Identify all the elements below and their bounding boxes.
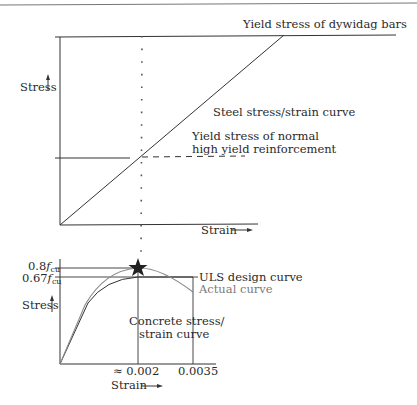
concrete-label-2: strain curve xyxy=(139,327,209,341)
page-top-rule xyxy=(0,3,417,5)
dywidag-yield-line xyxy=(55,35,396,37)
steel-curve-label: Steel stress/strain curve xyxy=(213,105,355,119)
concrete-chart: 0.8fcu 0.67fcu Stress ULS design curve A… xyxy=(22,258,303,392)
concrete-x-label: Strain xyxy=(111,378,148,392)
actual-label: Actual curve xyxy=(198,282,273,296)
dotted-guide-line xyxy=(141,36,142,262)
x-tick-00035: 0.0035 xyxy=(178,364,218,378)
normal-yield-label-2: high yield reinforcement xyxy=(192,142,337,156)
x-tick-0002: ≈ 0.002 xyxy=(113,364,159,378)
steel-chart: Stress Strain Yield stress of dywidag ba… xyxy=(20,17,407,237)
arrow-right-icon xyxy=(247,228,253,232)
steel-y-label: Stress xyxy=(20,80,57,94)
normal-yield-dashed-line xyxy=(142,156,245,157)
stress-strain-figure: Stress Strain Yield stress of dywidag ba… xyxy=(0,0,417,405)
normal-yield-label-1: Yield stress of normal xyxy=(191,129,319,143)
concrete-y-label: Stress xyxy=(22,298,59,312)
dywidag-yield-label: Yield stress of dywidag bars xyxy=(242,17,407,31)
steel-x-label: Strain xyxy=(201,223,238,237)
concrete-label-1: Concrete stress/ xyxy=(129,314,225,328)
arrow-right-icon xyxy=(157,384,163,388)
